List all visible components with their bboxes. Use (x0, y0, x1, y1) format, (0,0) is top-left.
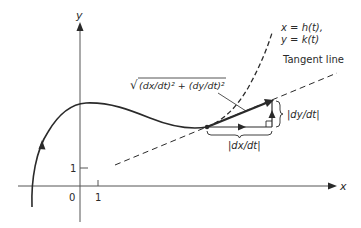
tangent-line-label: Tangent line (282, 54, 344, 65)
curve-equation-line2: y = k(t) (280, 34, 319, 45)
origin-label: 0 (69, 192, 75, 203)
vertical-component-arrow-icon (269, 110, 276, 118)
dx-brace (207, 131, 272, 138)
y-axis-arrow-icon (77, 22, 84, 31)
right-angle-marker (266, 121, 272, 127)
dy-brace (276, 101, 283, 127)
curve-solid (32, 103, 207, 207)
dx-dt-label: |dx/dt| (228, 140, 261, 152)
x-axis-arrow-icon (328, 183, 337, 190)
curve-equation-line1: x = h(t), (280, 22, 323, 33)
y-axis-label: y (75, 9, 83, 22)
radical-sign: √ (130, 78, 138, 92)
tangent-vector (207, 103, 266, 127)
speed-label: √ (dx/dt)² + (dy/dt)² (130, 78, 226, 92)
parametric-curve-diagram: y x 0 1 1 x = h(t), y = k(t) Tangent lin… (0, 0, 361, 228)
speed-label-leader (218, 93, 246, 111)
dy-dt-label: |dy/dt| (287, 109, 320, 121)
y-tick-label: 1 (70, 163, 76, 174)
x-tick-label: 1 (95, 192, 101, 203)
axes (18, 22, 337, 222)
horizontal-component-arrow-icon (238, 124, 246, 131)
curve-direction-arrow-icon (39, 140, 46, 150)
x-axis-label: x (339, 180, 347, 193)
radicand: (dx/dt)² + (dy/dt)² (139, 80, 225, 91)
